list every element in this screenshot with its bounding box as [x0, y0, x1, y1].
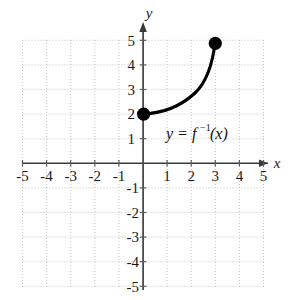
curve-equation-suffix: (x) [210, 125, 228, 143]
graph-figure: -5 -4 -3 -2 -1 1 2 3 4 5 5 4 3 2 1 -1 -2… [0, 0, 292, 300]
x-tick-label: -4 [40, 168, 53, 184]
y-tick-label: 1 [128, 131, 136, 147]
y-tick-label: -4 [127, 254, 140, 270]
x-tick-label: -5 [16, 168, 29, 184]
x-tick-label: -3 [64, 168, 77, 184]
y-tick-label: -3 [127, 229, 140, 245]
x-tick-label: 5 [260, 168, 268, 184]
start-point-dot [137, 108, 150, 121]
function-curve [143, 40, 215, 114]
y-tick-label: 3 [128, 82, 136, 98]
x-axis-tick-labels: -5 -4 -3 -2 -1 1 2 3 4 5 [16, 168, 267, 184]
y-axis-label: y [144, 5, 153, 21]
y-tick-label: -5 [127, 279, 140, 295]
y-tick-label: 4 [128, 57, 136, 73]
y-tick-label: 5 [128, 33, 136, 49]
x-tick-label: 3 [212, 168, 220, 184]
x-tick-label: 4 [236, 168, 244, 184]
x-tick-label: -1 [113, 168, 126, 184]
y-tick-label: -2 [127, 205, 140, 221]
x-axis-label: x [273, 155, 281, 171]
y-axis [139, 22, 147, 290]
end-point-dot [209, 37, 222, 50]
curve-equation-base: y = f [164, 125, 199, 143]
coordinate-plane: -5 -4 -3 -2 -1 1 2 3 4 5 5 4 3 2 1 -1 -2… [0, 0, 292, 300]
y-tick-label: 2 [128, 106, 136, 122]
x-axis [22, 160, 268, 167]
x-tick-label: 1 [163, 168, 171, 184]
x-tick-label: 2 [187, 168, 195, 184]
x-tick-label: -2 [89, 168, 102, 184]
y-tick-label: -1 [127, 180, 140, 196]
curve-equation-label: y = f −1 (x) [164, 122, 228, 143]
y-axis-arrowhead [139, 22, 147, 32]
